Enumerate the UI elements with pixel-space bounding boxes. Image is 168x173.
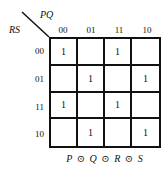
kmap-cell: 1 xyxy=(132,66,159,93)
expression-caption: P ⊙ Q ⊙ R ⊙ S xyxy=(49,153,161,164)
kmap-cell: 1 xyxy=(105,93,132,120)
row-label: 11 xyxy=(24,102,44,112)
row-label: 01 xyxy=(24,74,44,84)
kmap-cell xyxy=(132,39,159,66)
kmap-cell xyxy=(132,93,159,120)
column-label: 11 xyxy=(105,25,133,35)
kmap-cell: 1 xyxy=(78,66,105,93)
kmap-cell xyxy=(105,119,132,146)
row-label: 00 xyxy=(24,46,44,56)
column-label: 10 xyxy=(133,25,161,35)
kmap-cell: 1 xyxy=(51,39,78,66)
kmap-cell xyxy=(105,66,132,93)
karnaugh-map-grid: 1 1 1 1 1 1 1 1 xyxy=(49,37,161,148)
column-variable-label: PQ xyxy=(40,9,53,20)
kmap-cell: 1 xyxy=(132,119,159,146)
kmap-cell: 1 xyxy=(51,93,78,120)
kmap-cell xyxy=(78,39,105,66)
kmap-cell xyxy=(51,66,78,93)
kmap-cell xyxy=(78,93,105,120)
column-label: 00 xyxy=(49,25,77,35)
row-variable-label: RS xyxy=(9,24,20,35)
kmap-cell: 1 xyxy=(78,119,105,146)
kmap-cell xyxy=(51,119,78,146)
row-label: 10 xyxy=(24,129,44,139)
kmap-cell: 1 xyxy=(105,39,132,66)
column-label: 01 xyxy=(77,25,105,35)
